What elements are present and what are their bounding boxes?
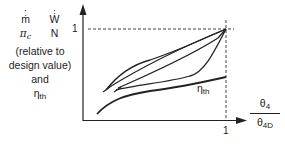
y-tick-1: 1 xyxy=(72,23,78,34)
diagram-plot xyxy=(0,0,285,145)
x-label-denominator: θ4D xyxy=(257,116,273,128)
curve-start-tick-1 xyxy=(103,87,110,92)
fraction-bar xyxy=(250,113,280,114)
x-tick-1: 1 xyxy=(223,125,229,136)
x-label-numerator: θ4 xyxy=(260,97,270,109)
eta-th-curve-label: ηth xyxy=(197,82,210,96)
middle-curve-1 xyxy=(108,29,226,88)
y-axis-arrow-icon xyxy=(80,4,87,15)
x-axis-label: θ4 θ4D xyxy=(248,97,282,130)
x-axis-arrow-icon xyxy=(236,117,247,124)
